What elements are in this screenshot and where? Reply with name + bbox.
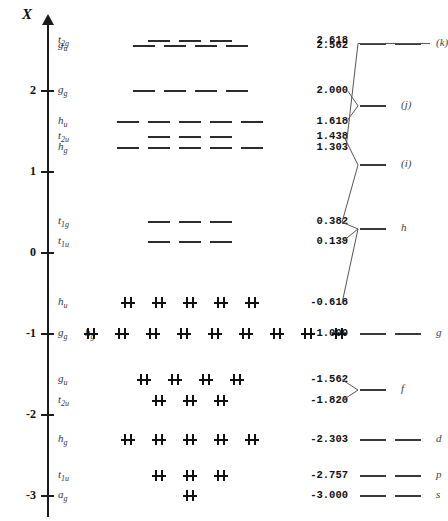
level-dash	[148, 241, 170, 243]
symmetry-label: t2u	[58, 393, 69, 408]
electron-pair	[208, 328, 222, 339]
eigenvalue-text: -2.757	[282, 469, 348, 481]
electron-pair	[121, 297, 135, 308]
spherical-level-dash	[360, 495, 386, 497]
level-dash	[148, 40, 170, 42]
level-dash	[148, 121, 170, 123]
spherical-level-label: (i)	[401, 157, 411, 169]
eigenvalue-text: 2.000	[282, 84, 348, 96]
eigenvalue-text: -1.820	[282, 394, 348, 406]
spherical-level-dash	[395, 439, 421, 441]
level-dash	[210, 221, 232, 223]
y-tick-label: -1	[14, 326, 36, 341]
y-tick-mark	[41, 252, 54, 254]
spherical-level-dash	[360, 43, 386, 45]
spherical-level-dash	[360, 164, 386, 166]
electron-pair	[183, 297, 197, 308]
electron-pair	[152, 470, 166, 481]
spherical-level-label: (k)	[436, 36, 448, 48]
electron-pair	[230, 374, 244, 385]
y-axis-arrow	[42, 14, 54, 25]
spherical-level-label: (j)	[401, 98, 411, 110]
level-dash	[210, 136, 232, 138]
symmetry-label: t1u	[58, 234, 69, 249]
symmetry-label: gu	[58, 38, 68, 53]
eigenvalue-text: -1.562	[282, 373, 348, 385]
level-dash	[164, 45, 186, 47]
level-dash	[241, 147, 263, 149]
spherical-level-label: h	[401, 221, 407, 233]
electron-pair	[146, 328, 160, 339]
electron-pair	[214, 434, 228, 445]
level-dash	[179, 40, 201, 42]
level-dash	[195, 90, 217, 92]
level-dash	[179, 121, 201, 123]
symmetry-label: t1g	[58, 214, 69, 229]
y-tick-mark	[41, 495, 54, 497]
electron-pair	[183, 490, 197, 501]
electron-pair	[214, 297, 228, 308]
symmetry-label: gg	[58, 326, 68, 341]
symmetry-label: hu	[58, 295, 68, 310]
level-dash	[133, 45, 155, 47]
y-tick-label: 2	[14, 83, 36, 98]
electron-pair	[152, 434, 166, 445]
level-dash	[179, 241, 201, 243]
symmetry-label: gg	[58, 83, 68, 98]
level-dash	[148, 221, 170, 223]
electron-pair	[137, 374, 151, 385]
electron-pair	[183, 470, 197, 481]
electron-pair	[168, 374, 182, 385]
spherical-level-dash	[360, 333, 386, 335]
level-dash	[210, 121, 232, 123]
level-dash	[210, 147, 232, 149]
spherical-level-dash	[360, 228, 386, 230]
symmetry-label: hu	[58, 114, 68, 129]
symmetry-label: hg	[58, 432, 68, 447]
electron-pair	[214, 470, 228, 481]
eigenvalue-text: 1.303	[282, 141, 348, 153]
level-dash	[117, 147, 139, 149]
spherical-level-dash	[395, 43, 421, 45]
spherical-level-dash	[395, 475, 421, 477]
electron-pair	[214, 395, 228, 406]
spherical-level-dash	[360, 105, 386, 107]
spherical-level-dash	[360, 439, 386, 441]
y-tick-label: -3	[14, 488, 36, 503]
spherical-level-label: g	[436, 326, 442, 338]
symmetry-label: hg	[58, 140, 68, 155]
electron-pair	[84, 328, 98, 339]
level-dash	[179, 221, 201, 223]
level-dash	[179, 147, 201, 149]
level-dash	[133, 90, 155, 92]
eigenvalue-text: -0.618	[282, 296, 348, 308]
eigenvalue-text: -3.000	[282, 489, 348, 501]
electron-pair	[245, 434, 259, 445]
y-tick-mark	[41, 414, 54, 416]
y-tick-label: 1	[14, 164, 36, 179]
symmetry-label: ag	[58, 488, 68, 503]
electron-pair	[152, 395, 166, 406]
electron-pair	[177, 328, 191, 339]
energy-level-diagram: X 210-1-2-3 t2ggugghut2uhgt1gt1uhugghggu…	[0, 0, 448, 521]
level-dash	[148, 147, 170, 149]
electron-pair	[115, 328, 129, 339]
level-dash	[179, 136, 201, 138]
level-dash	[148, 136, 170, 138]
eigenvalue-text: 0.382	[282, 215, 348, 227]
electron-pair	[239, 328, 253, 339]
electron-pair	[183, 434, 197, 445]
level-dash	[164, 90, 186, 92]
electron-pair	[183, 395, 197, 406]
symmetry-label: gu	[58, 372, 68, 387]
spherical-level-dash	[395, 333, 421, 335]
spherical-level-dash	[360, 475, 386, 477]
electron-pair	[199, 374, 213, 385]
level-dash	[210, 40, 232, 42]
spherical-level-dash	[360, 389, 386, 391]
eigenvalue-text: -1.000	[282, 327, 348, 339]
spherical-level-label: p	[436, 468, 442, 480]
level-dash	[210, 241, 232, 243]
level-dash	[117, 121, 139, 123]
symmetry-label: t1u	[58, 468, 69, 483]
